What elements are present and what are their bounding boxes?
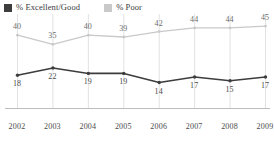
x-tick-label-2009: 2009 bbox=[257, 122, 274, 131]
value-label-poor-2006: 42 bbox=[155, 20, 163, 28]
value-label-poor-2007: 44 bbox=[190, 16, 198, 24]
value-label-excellent-good-2009: 17 bbox=[261, 82, 269, 90]
data-point-excellent-good-2004 bbox=[87, 72, 90, 75]
data-point-excellent-good-2006 bbox=[158, 81, 161, 84]
legend-item-excellent-good: % Excellent/Good bbox=[4, 3, 80, 12]
legend-item-poor: % Poor bbox=[104, 3, 142, 12]
chart-x-axis: 20022003200420052006200720082009 bbox=[0, 122, 274, 136]
data-point-poor-2009 bbox=[264, 25, 267, 28]
chart-canvas bbox=[0, 14, 274, 112]
data-point-poor-2003 bbox=[52, 43, 55, 46]
legend-label-poor: % Poor bbox=[116, 3, 142, 12]
x-tick-label-2006: 2006 bbox=[150, 122, 167, 131]
data-point-excellent-good-2005 bbox=[122, 72, 125, 75]
value-label-poor-2002: 40 bbox=[13, 23, 21, 31]
legend-swatch-excellent-good bbox=[4, 4, 12, 12]
data-point-poor-2004 bbox=[87, 34, 90, 37]
data-point-poor-2008 bbox=[229, 27, 232, 30]
legend-label-excellent-good: % Excellent/Good bbox=[16, 3, 80, 12]
value-label-excellent-good-2007: 17 bbox=[190, 82, 198, 90]
value-label-excellent-good-2002: 18 bbox=[13, 80, 21, 88]
value-label-excellent-good-2005: 19 bbox=[119, 78, 127, 86]
data-point-excellent-good-2009 bbox=[264, 75, 267, 78]
data-point-poor-2007 bbox=[193, 27, 196, 30]
data-point-excellent-good-2003 bbox=[51, 66, 54, 69]
chart-legend: % Excellent/Good % Poor bbox=[4, 1, 142, 14]
data-point-poor-2005 bbox=[122, 36, 125, 39]
data-point-poor-2006 bbox=[158, 30, 161, 33]
chart-plot-area: 40354039424444451822191914171517 bbox=[0, 14, 274, 112]
value-label-excellent-good-2008: 15 bbox=[225, 86, 233, 94]
x-tick-label-2004: 2004 bbox=[79, 122, 96, 131]
value-label-poor-2008: 44 bbox=[225, 16, 233, 24]
x-tick-label-2005: 2005 bbox=[115, 122, 132, 131]
data-point-excellent-good-2002 bbox=[16, 74, 19, 77]
value-label-excellent-good-2006: 14 bbox=[155, 88, 163, 96]
value-label-poor-2009: 45 bbox=[261, 14, 269, 22]
data-point-excellent-good-2007 bbox=[193, 75, 196, 78]
x-tick-label-2007: 2007 bbox=[186, 122, 203, 131]
x-tick-label-2002: 2002 bbox=[9, 122, 26, 131]
x-tick-label-2003: 2003 bbox=[44, 122, 61, 131]
value-label-excellent-good-2003: 22 bbox=[48, 73, 56, 81]
value-label-poor-2004: 40 bbox=[84, 23, 92, 31]
x-tick-label-2008: 2008 bbox=[221, 122, 238, 131]
value-label-excellent-good-2004: 19 bbox=[84, 78, 92, 86]
value-label-poor-2005: 39 bbox=[119, 25, 127, 33]
value-label-poor-2003: 35 bbox=[48, 32, 56, 40]
data-point-poor-2002 bbox=[16, 34, 19, 37]
legend-swatch-poor bbox=[104, 4, 112, 12]
data-point-excellent-good-2008 bbox=[228, 79, 231, 82]
